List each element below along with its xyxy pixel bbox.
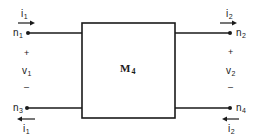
node-base: n [236, 102, 242, 113]
voltage-sub: 2 [232, 70, 236, 77]
minus-sign-right: – [228, 83, 233, 92]
node-sub: 3 [19, 107, 23, 114]
current-base: i [21, 8, 23, 19]
voltage-label-v2: v2 [226, 66, 235, 76]
current-label-i2-bottom: i2 [228, 124, 235, 134]
minus-sign-left: – [24, 83, 29, 92]
current-label-i2-top: i2 [226, 9, 233, 19]
current-sub: 1 [24, 13, 28, 20]
node-sub: 1 [19, 32, 23, 39]
current-label-i1-bottom: i1 [23, 124, 30, 134]
node-label-n1: n1 [13, 28, 23, 38]
node-sub: 2 [242, 32, 246, 39]
voltage-base: v [22, 65, 27, 76]
arrow-right-icon [220, 21, 237, 26]
block-label: M4 [120, 63, 135, 74]
block-label-sub: 4 [131, 67, 135, 76]
arrow-right-icon [18, 21, 35, 26]
node-label-n2: n2 [236, 28, 246, 38]
current-sub: 1 [26, 128, 30, 135]
current-base: i [23, 123, 25, 134]
plus-sign-left: + [24, 49, 29, 58]
current-sub: 2 [229, 13, 233, 20]
arrow-left-icon [222, 117, 239, 122]
current-base: i [226, 8, 228, 19]
terminal-n1-dot [26, 31, 30, 35]
voltage-label-v1: v1 [22, 66, 31, 76]
node-label-n3: n3 [13, 103, 23, 113]
current-label-i1-top: i1 [21, 9, 28, 19]
terminal-n3-dot [25, 106, 29, 110]
arrow-left-icon [17, 117, 35, 122]
node-label-n4: n4 [236, 103, 246, 113]
node-sub: 4 [242, 107, 246, 114]
node-base: n [13, 27, 19, 38]
block-label-base: M [120, 62, 130, 74]
voltage-sub: 1 [28, 70, 32, 77]
terminal-n2-dot [228, 31, 232, 35]
voltage-base: v [226, 65, 231, 76]
current-base: i [228, 123, 230, 134]
node-base: n [236, 27, 242, 38]
terminal-n4-dot [228, 106, 232, 110]
node-base: n [13, 102, 19, 113]
current-sub: 2 [231, 128, 235, 135]
plus-sign-right: + [228, 48, 233, 57]
